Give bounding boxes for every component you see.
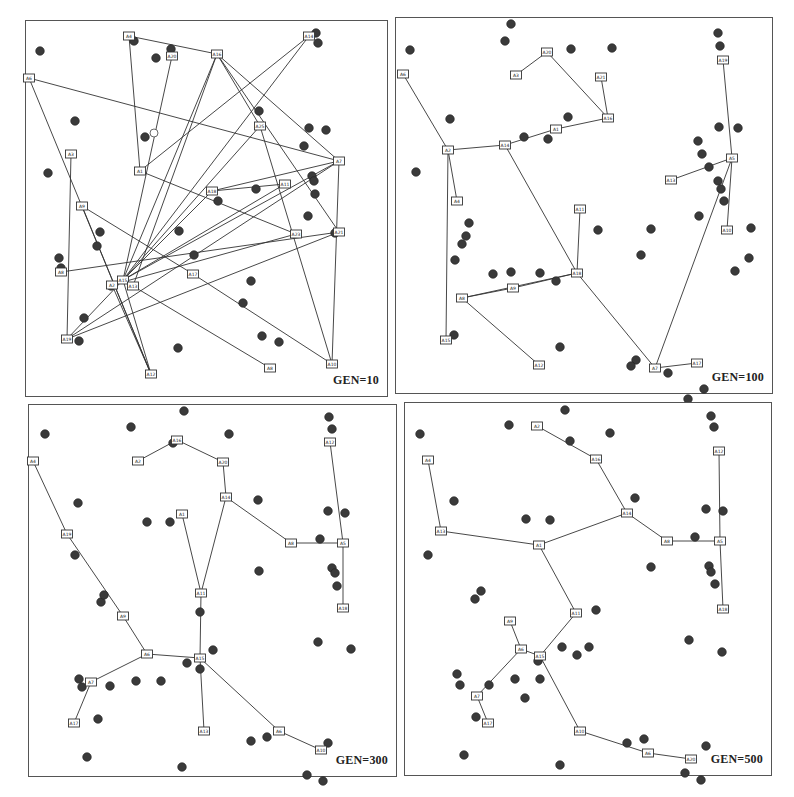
city-dot	[627, 362, 636, 371]
city-dot	[325, 413, 334, 422]
agent-node-label: A2	[135, 459, 141, 464]
network-edge	[212, 184, 285, 191]
network-edge	[223, 462, 226, 497]
city-dot	[462, 232, 471, 241]
city-dot	[75, 675, 84, 684]
agent-node-label: A1	[553, 127, 559, 132]
agent-node-label: A17	[484, 721, 493, 726]
city-dot	[522, 515, 531, 524]
network-edge	[448, 150, 457, 201]
generation-label: GEN=500	[711, 752, 763, 767]
network-edge	[182, 514, 201, 593]
network-edge	[123, 36, 309, 280]
agent-node-label: A15	[119, 278, 128, 283]
agent-node-label: A3	[513, 73, 519, 78]
city-dot	[328, 425, 337, 434]
city-dot	[180, 407, 189, 416]
city-dot	[702, 505, 711, 514]
agent-node-label: A16	[213, 52, 222, 57]
network-edge	[82, 206, 151, 374]
network-edge	[596, 459, 627, 513]
agent-node: A2	[133, 457, 144, 465]
agent-node: A6	[24, 74, 35, 82]
network-edge	[540, 613, 576, 656]
agent-node-label: A11	[576, 207, 585, 212]
network-edge	[200, 658, 279, 731]
agent-node-label: A2	[445, 148, 451, 153]
agent-node-label: A15	[196, 656, 205, 661]
city-dot	[685, 636, 694, 645]
network-edge	[428, 460, 441, 531]
city-dot	[536, 269, 545, 278]
agent-node: A13	[128, 282, 139, 290]
city-dot	[697, 776, 706, 785]
network-edge	[547, 52, 608, 118]
agent-node-label: A13	[200, 729, 209, 734]
agent-node: A14	[500, 141, 511, 149]
panel-gen500: A2A16A12A4A14A13A1A8A5A18A11A9A6A15A7A17…	[404, 402, 772, 776]
city-dot	[544, 135, 553, 144]
agent-node-label: A18	[719, 607, 728, 612]
agent-node-label: A18	[208, 189, 217, 194]
city-dot	[347, 645, 356, 654]
agent-node-label: A19	[63, 337, 72, 342]
network-edge	[577, 273, 655, 368]
agent-node-label: A18	[339, 606, 348, 611]
agent-node: A20	[218, 458, 229, 466]
city-dot	[585, 643, 594, 652]
city-dot	[71, 117, 80, 126]
agent-node: A2	[107, 281, 118, 289]
city-dot	[80, 314, 89, 323]
agent-node: A6	[274, 727, 285, 735]
city-dot	[594, 226, 603, 235]
city-dot	[564, 113, 573, 122]
network-edge	[217, 54, 260, 126]
city-dot	[263, 733, 272, 742]
agent-node-label: A12	[326, 440, 335, 445]
city-dot	[41, 430, 50, 439]
city-dot	[214, 197, 223, 206]
network-edge	[129, 36, 140, 171]
agent-node-label: A18	[573, 271, 582, 276]
city-dot	[702, 742, 711, 751]
city-dot	[511, 675, 520, 684]
agent-node: A19	[718, 56, 729, 64]
agent-node-label: A21	[335, 230, 344, 235]
agent-node: A9	[118, 612, 129, 620]
city-dot	[521, 694, 530, 703]
agent-node: A19	[62, 530, 73, 538]
agent-node: A8	[457, 294, 468, 302]
city-dot	[472, 713, 481, 722]
agent-node: A21	[596, 73, 607, 81]
city-dot	[406, 46, 415, 55]
agent-node-label: A19	[63, 532, 72, 537]
agent-node-label: A23	[292, 232, 301, 237]
network-edge	[539, 545, 576, 613]
city-dot	[647, 563, 656, 572]
city-dot	[127, 423, 136, 432]
agent-node-label: A6	[26, 76, 32, 81]
agent-node: A15	[441, 336, 452, 344]
agent-node: A20	[167, 52, 178, 60]
agent-node: A6	[398, 70, 409, 78]
network-plot-gen300: A16A2A20A12A4A14A1A19A8A5A11A18A9A6A15A7…	[29, 405, 398, 778]
network-edge	[123, 161, 339, 280]
city-dot	[311, 190, 320, 199]
agent-node: A20	[542, 48, 553, 56]
city-dot	[698, 150, 707, 159]
city-dot	[573, 651, 582, 660]
network-edge	[133, 286, 270, 368]
city-dot	[707, 412, 716, 421]
city-dot	[300, 142, 309, 151]
agent-node: A9	[508, 284, 519, 292]
agent-node-label: A21	[597, 75, 606, 80]
agent-node-label: A17	[693, 361, 702, 366]
city-dot	[166, 518, 175, 527]
agent-node-label: A15	[442, 338, 451, 343]
agent-node: A7	[86, 678, 97, 686]
agent-node: A17	[188, 270, 199, 278]
network-edge	[123, 616, 147, 654]
city-dot	[304, 212, 313, 221]
agent-node-label: A16	[592, 457, 601, 462]
agent-node: A13	[666, 176, 677, 184]
